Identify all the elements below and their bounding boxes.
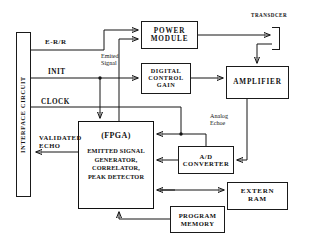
fpga-sub-line3: CORRELATOR, xyxy=(92,164,140,171)
dcg-line2: CONTROL xyxy=(148,74,184,81)
block-interface-circuit[interactable]: INTERFACE CIRCUIT xyxy=(16,32,31,197)
emited-signal-line1: Emited xyxy=(101,53,119,59)
adc-line1: A/D xyxy=(200,153,213,160)
signal-label-emited-signal: Emited Signal xyxy=(101,53,119,67)
block-ad-converter[interactable]: A/D CONVERTER xyxy=(178,146,234,174)
fpga-sub-line1: EMITTED SIGNAL xyxy=(87,147,145,154)
validated-echo-line1: VALIDATED xyxy=(39,134,82,141)
fpga-sub-line4: PEAK DETECTOR xyxy=(88,173,144,180)
block-digital-control-gain[interactable]: DIGITAL CONTROL GAIN xyxy=(141,63,191,94)
power-module-line2: MODULE xyxy=(151,35,189,43)
block-program-memory[interactable]: PROGRAM MEMORY xyxy=(170,206,225,233)
emited-signal-line2: Signal xyxy=(101,60,117,66)
dcg-line1: DIGITAL xyxy=(151,67,182,74)
block-transducer[interactable] xyxy=(272,27,280,50)
signal-label-analog-echo: Analog Echoe xyxy=(210,113,228,127)
signal-label-e-r-r: E-R/R xyxy=(45,38,67,46)
power-module-label: POWER MODULE xyxy=(151,27,189,43)
program-memory-line2: MEMORY xyxy=(181,220,215,227)
digital-control-gain-label: DIGITAL CONTROL GAIN xyxy=(148,68,184,89)
interface-circuit-label: INTERFACE CIRCUIT xyxy=(20,76,27,153)
extern-ram-label: EXTERN RAM xyxy=(241,188,274,204)
analog-echo-line1: Analog xyxy=(210,113,228,119)
dcg-line3: GAIN xyxy=(157,81,176,88)
signal-label-init: INIT xyxy=(48,68,66,76)
fpga-title: (FPGA) xyxy=(101,131,131,140)
fpga-subtitle: EMITTED SIGNAL GENERATOR, CORRELATOR, PE… xyxy=(87,147,145,181)
block-fpga[interactable]: (FPGA) EMITTED SIGNAL GENERATOR, CORRELA… xyxy=(78,121,154,209)
block-diagram-canvas: INTERFACE CIRCUIT POWER MODULE DIGITAL C… xyxy=(0,0,309,249)
program-memory-label: PROGRAM MEMORY xyxy=(179,212,217,227)
signal-label-clock: CLOCK xyxy=(41,98,70,106)
validated-echo-line2: ECHO xyxy=(39,142,60,149)
fpga-sub-line2: GENERATOR, xyxy=(94,156,137,163)
block-extern-ram[interactable]: EXTERN RAM xyxy=(227,182,288,210)
power-module-line1: POWER xyxy=(154,27,186,35)
amplifier-label: AMPLIFIER xyxy=(233,78,281,86)
adc-line2: CONVERTER xyxy=(183,160,229,167)
extern-ram-line2: RAM xyxy=(248,195,267,203)
ad-converter-label: A/D CONVERTER xyxy=(183,153,229,168)
signal-label-validated-echo: VALIDATED ECHO xyxy=(39,134,82,150)
analog-echo-line2: Echoe xyxy=(210,120,225,126)
program-memory-line1: PROGRAM xyxy=(179,212,217,219)
transducer-label: TRANSDCER xyxy=(251,12,287,18)
block-amplifier[interactable]: AMPLIFIER xyxy=(226,66,289,99)
extern-ram-line1: EXTERN xyxy=(241,187,274,195)
block-power-module[interactable]: POWER MODULE xyxy=(141,21,198,49)
